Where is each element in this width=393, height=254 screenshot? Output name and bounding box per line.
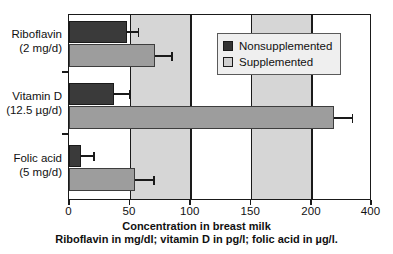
chart-caption: Concentration in breast milk Riboflavin … xyxy=(0,220,393,246)
errorbar-cap-vitamin-d-nonsupplemented xyxy=(129,90,131,99)
errorbar-cap-folic-acid-supplemented xyxy=(153,176,155,185)
y-axis-label-riboflavin: Riboflavin (2 mg/d) xyxy=(0,28,62,55)
y-axis-label-vitamin-d-dose: (12.5 µg/d) xyxy=(0,104,62,118)
legend-swatch-nonsupplemented xyxy=(223,41,233,51)
y-axis-tick-group-2 xyxy=(62,133,68,135)
y-axis-label-vitamin-d: Vitamin D (12.5 µg/d) xyxy=(0,90,62,117)
bar-folic-acid-nonsupplemented[interactable] xyxy=(69,145,81,167)
errorbar-folic-acid-supplemented xyxy=(135,179,154,181)
errorbar-cap-riboflavin-supplemented xyxy=(171,52,173,61)
y-axis-label-riboflavin-dose: (2 mg/d) xyxy=(0,42,62,56)
plot-area: Nonsupplemented Supplemented xyxy=(68,14,371,200)
x-axis-ticklabel-50: 50 xyxy=(104,205,154,217)
caption-line-2: Riboflavin in mg/dl; vitamin D in pg/l; … xyxy=(0,233,393,246)
legend-swatch-supplemented xyxy=(223,57,233,67)
x-axis-ticklabel-100: 100 xyxy=(165,205,215,217)
y-axis-label-folic-acid-name: Folic acid xyxy=(0,152,62,166)
bar-riboflavin-nonsupplemented[interactable] xyxy=(69,21,127,43)
errorbar-vitamin-d-supplemented xyxy=(334,117,352,119)
y-axis-label-folic-acid: Folic acid (5 mg/d) xyxy=(0,152,62,179)
y-axis-label-riboflavin-name: Riboflavin xyxy=(0,28,62,42)
legend-item-nonsupplemented[interactable]: Nonsupplemented xyxy=(223,38,332,54)
caption-line-1: Concentration in breast milk xyxy=(0,220,393,233)
legend-item-supplemented[interactable]: Supplemented xyxy=(223,54,332,70)
x-axis-ticklabel-150: 150 xyxy=(225,205,275,217)
x-axis-ticklabel-400: 400 xyxy=(346,205,393,217)
errorbar-riboflavin-supplemented xyxy=(155,55,172,57)
bar-vitamin-d-supplemented[interactable] xyxy=(69,106,334,129)
legend-label-supplemented: Supplemented xyxy=(239,56,313,68)
y-axis-label-folic-acid-dose: (5 mg/d) xyxy=(0,166,62,180)
x-axis-ticklabel-0: 0 xyxy=(44,205,94,217)
y-axis-label-vitamin-d-name: Vitamin D xyxy=(0,90,62,104)
bar-chart-figure: Nonsupplemented Supplemented Riboflavin … xyxy=(0,0,393,254)
errorbar-vitamin-d-nonsupplemented xyxy=(114,93,130,95)
errorbar-cap-vitamin-d-supplemented xyxy=(352,114,354,123)
x-axis-ticklabel-200: 200 xyxy=(286,205,336,217)
legend-label-nonsupplemented: Nonsupplemented xyxy=(239,40,332,52)
bar-riboflavin-supplemented[interactable] xyxy=(69,44,155,67)
errorbar-cap-folic-acid-nonsupplemented xyxy=(93,152,95,161)
errorbar-folic-acid-nonsupplemented xyxy=(81,155,94,157)
errorbar-cap-riboflavin-nonsupplemented xyxy=(138,28,140,37)
bar-vitamin-d-nonsupplemented[interactable] xyxy=(69,83,114,105)
y-axis-tick-group-1 xyxy=(62,71,68,73)
chart-legend: Nonsupplemented Supplemented xyxy=(217,33,341,75)
bar-folic-acid-supplemented[interactable] xyxy=(69,168,135,191)
